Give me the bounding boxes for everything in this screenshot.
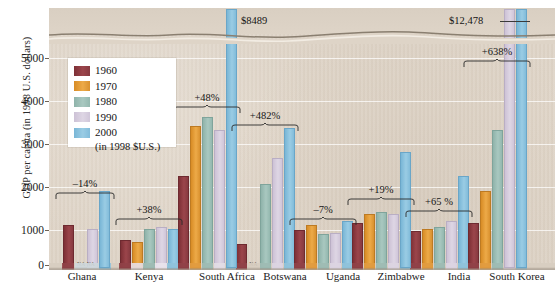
legend-label-1980: 1980 <box>95 96 117 107</box>
chart-screenshot: GDP per capita (in 1998 U.S. dollars) 50… <box>0 0 560 295</box>
bar-uganda-1970 <box>306 225 317 268</box>
bar-india-1990 <box>446 221 457 268</box>
gridline-2000 <box>49 187 555 188</box>
annotation-label-south-korea: +638% <box>463 46 531 57</box>
legend-item-1990[interactable]: 1990 <box>74 110 176 125</box>
value-callout-south-africa-2000: $8489 <box>241 15 267 26</box>
annotation-label-zimbabwe: +19% <box>347 184 415 195</box>
bar-zimbabwe-1980 <box>376 212 387 268</box>
bracket-icon <box>55 191 115 200</box>
bar-zimbabwe-1960 <box>352 223 363 268</box>
y-tick-label-1000: 1000 <box>4 224 44 236</box>
bracket-icon <box>463 59 531 68</box>
legend-item-2000[interactable]: 2000 <box>74 125 176 140</box>
bracket-icon <box>289 217 357 226</box>
legend-swatch-2000 <box>74 128 90 138</box>
bracket-icon <box>115 217 183 226</box>
x-label-botswana: Botswana <box>250 270 320 282</box>
x-label-kenya: Kenya <box>119 270 179 282</box>
y-tick-label-4000: 4000 <box>4 95 44 107</box>
y-tick-label-0: 0 <box>4 259 44 271</box>
legend-swatch-1960 <box>74 66 90 76</box>
bar-india-1980 <box>434 227 445 268</box>
plot-area: NA NA NA <box>49 8 555 268</box>
y-axis-title: GDP per capita (in 1998 U.S. dollars) <box>21 8 32 228</box>
axis-break-wave-icon <box>49 28 555 44</box>
x-label-ghana: Ghana <box>52 270 112 282</box>
y-tick-label-3000: 3000 <box>4 138 44 150</box>
bar-south-korea-1970 <box>480 191 491 268</box>
y-tick-label-5000: 5000 <box>4 52 44 64</box>
legend-swatch-1970 <box>74 81 90 91</box>
y-tick-label-2000: 2000 <box>4 181 44 193</box>
bar-south-korea-1980 <box>492 130 503 268</box>
legend-note: (in 1998 $U.S.) <box>74 141 176 152</box>
legend-label-1990: 1990 <box>95 112 117 123</box>
x-label-zimbabwe: Zimbabwe <box>363 270 439 282</box>
value-callout-south-korea-2000: $12,478 <box>449 15 483 26</box>
bar-zimbabwe-1970 <box>364 214 375 268</box>
legend-label-2000: 2000 <box>95 127 117 138</box>
x-label-south-korea: South Korea <box>475 270 559 282</box>
legend-item-1980[interactable]: 1980 <box>74 94 176 109</box>
legend-swatch-1980 <box>74 97 90 107</box>
annotation-label-ghana: –14% <box>55 178 115 189</box>
bar-zimbabwe-1990 <box>388 214 399 268</box>
annotation-label-india: +65 % <box>405 196 473 207</box>
legend-label-1960: 1960 <box>95 65 117 76</box>
bracket-icon <box>231 123 299 132</box>
bar-botswana-1990 <box>272 158 283 268</box>
bar-ghana-2000 <box>99 191 110 268</box>
legend-swatch-1990 <box>74 112 90 122</box>
bar-south-africa-1990 <box>214 130 225 268</box>
bar-south-africa-2000 <box>226 9 237 268</box>
bar-south-korea-1960 <box>468 223 479 268</box>
bar-south-africa-1970 <box>190 126 201 268</box>
legend-item-1960[interactable]: 1960 <box>74 63 176 78</box>
bar-botswana-1980 <box>260 184 271 268</box>
page-edge-artifact <box>49 263 555 270</box>
legend-label-1970: 1970 <box>95 81 117 92</box>
bar-south-africa-1980 <box>202 117 213 268</box>
legend: 1960 1970 1980 1990 2000 (in 1998 $U.S.) <box>68 58 176 147</box>
annotation-label-botswana: +482% <box>231 110 299 121</box>
callout-leader-line <box>500 21 530 22</box>
bar-kenya-1990 <box>156 227 167 268</box>
bracket-icon <box>405 209 473 218</box>
annotation-label-kenya: +38% <box>115 204 183 215</box>
legend-item-1970[interactable]: 1970 <box>74 79 176 94</box>
annotation-label-south-africa: +48% <box>173 92 241 103</box>
